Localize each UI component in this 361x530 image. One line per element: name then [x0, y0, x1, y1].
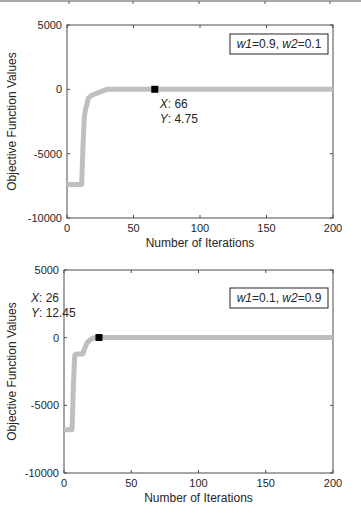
x-tick-label: 0	[61, 477, 67, 489]
y-tick-label: -5000	[34, 148, 62, 160]
x-tick-label: 200	[324, 222, 342, 234]
figure: 05010015020050000-5000-10000X: 66Y: 4.75…	[0, 0, 361, 530]
svg-text:X: 66: X: 66	[159, 97, 188, 111]
x-tick-label: 0	[64, 222, 70, 234]
y-tick-label: 5000	[38, 19, 62, 31]
x-tick-label: 50	[127, 222, 139, 234]
y-tick-label: 0	[53, 332, 59, 344]
x-tick-label: 200	[324, 477, 342, 489]
y-tick-label: -10000	[28, 212, 62, 224]
legend-text: w1=0.1, w2=0.9	[237, 291, 322, 305]
cropped-axis-remnant	[0, 1, 361, 4]
legend-text: w1=0.9, w2=0.1	[237, 37, 322, 51]
chart-top: 05010015020050000-5000-10000X: 66Y: 4.75…	[5, 19, 342, 250]
x-tick-label: 50	[125, 477, 137, 489]
x-axis-label: Number of Iterations	[146, 236, 255, 250]
y-tick-label: -10000	[25, 467, 59, 479]
legend: w1=0.1, w2=0.9	[230, 288, 328, 308]
svg-text:Y: 4.75: Y: 4.75	[160, 112, 198, 126]
datatip-marker[interactable]	[151, 86, 158, 93]
legend: w1=0.9, w2=0.1	[230, 34, 328, 54]
x-axis-label: Number of Iterations	[144, 491, 253, 505]
y-axis-label: Objective Function Values	[5, 52, 19, 191]
svg-text:X: 26: X: 26	[30, 291, 59, 305]
x-tick-label: 100	[191, 222, 209, 234]
x-tick-label: 100	[189, 477, 207, 489]
datatip-marker[interactable]	[95, 334, 102, 341]
x-tick-label: 150	[257, 477, 275, 489]
chart-bottom: 05010015020050000-5000-10000X: 26Y: 12.4…	[5, 264, 342, 505]
y-tick-label: 0	[56, 83, 62, 95]
y-axis-label: Objective Function Values	[5, 302, 19, 441]
svg-text:Y: 12.45: Y: 12.45	[31, 306, 76, 320]
x-tick-label: 150	[257, 222, 275, 234]
y-tick-label: 5000	[35, 264, 59, 276]
y-tick-label: -5000	[31, 399, 59, 411]
